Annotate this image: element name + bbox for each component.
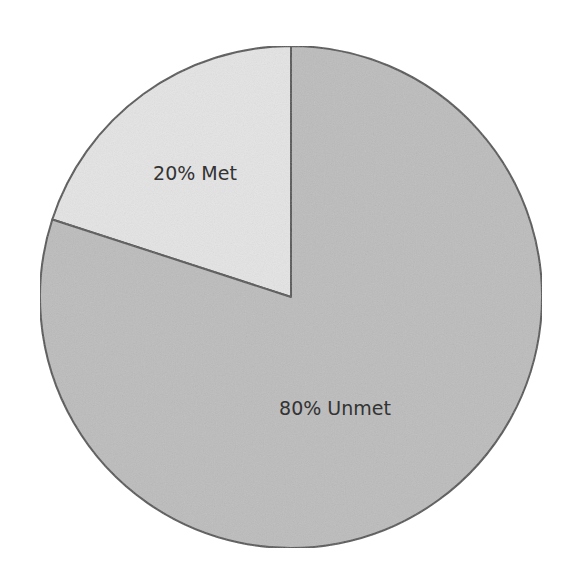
slice-label-met: 20% Met: [153, 162, 237, 184]
slice-label-unmet: 80% Unmet: [279, 397, 391, 419]
pie-slices: [40, 46, 542, 548]
pie-chart: 20% Met80% Unmet: [0, 0, 577, 584]
